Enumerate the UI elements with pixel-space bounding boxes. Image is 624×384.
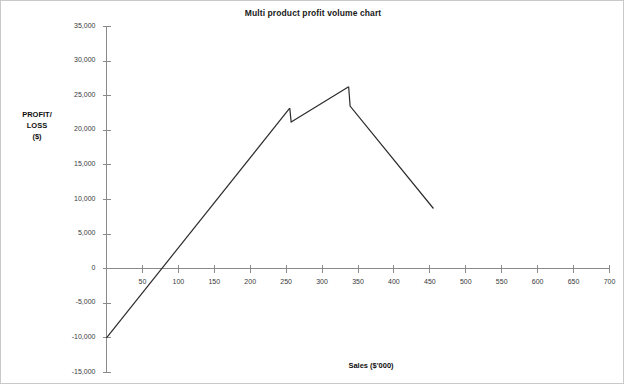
x-tick-label: 600	[523, 278, 553, 285]
x-tick-label: 300	[307, 278, 337, 285]
y-tick-label: -5,000	[52, 298, 96, 305]
ticks-group	[103, 27, 610, 373]
x-tick-label: 500	[451, 278, 481, 285]
x-tick-label: 650	[559, 278, 589, 285]
y-tick-label: 15,000	[52, 160, 96, 167]
y-tick-label: 0	[52, 264, 96, 271]
x-tick-label: 150	[199, 278, 229, 285]
x-tick-label: 550	[487, 278, 517, 285]
data-series-group	[107, 87, 434, 338]
y-tick-label: 20,000	[52, 125, 96, 132]
data-line-product-2	[290, 87, 349, 122]
y-tick-label: 30,000	[52, 56, 96, 63]
chart-canvas: Multi product profit volume chart PROFIT…	[0, 0, 624, 384]
x-tick-label: 350	[343, 278, 373, 285]
y-tick-label: -10,000	[52, 333, 96, 340]
y-tick-label: 5,000	[52, 229, 96, 236]
x-tick-label: 100	[163, 278, 193, 285]
axes-group	[107, 27, 610, 373]
y-tick-label: 25,000	[52, 91, 96, 98]
x-tick-label: 200	[235, 278, 265, 285]
x-tick-label: 250	[271, 278, 301, 285]
data-line-product-1	[107, 108, 290, 338]
x-tick-label: 50	[127, 278, 157, 285]
y-tick-label: 10,000	[52, 195, 96, 202]
x-tick-label: 400	[379, 278, 409, 285]
x-tick-label: 700	[595, 278, 624, 285]
data-line-product-3	[349, 87, 434, 209]
y-tick-label: -15,000	[52, 368, 96, 375]
y-tick-label: 35,000	[52, 22, 96, 29]
x-tick-label: 450	[415, 278, 445, 285]
